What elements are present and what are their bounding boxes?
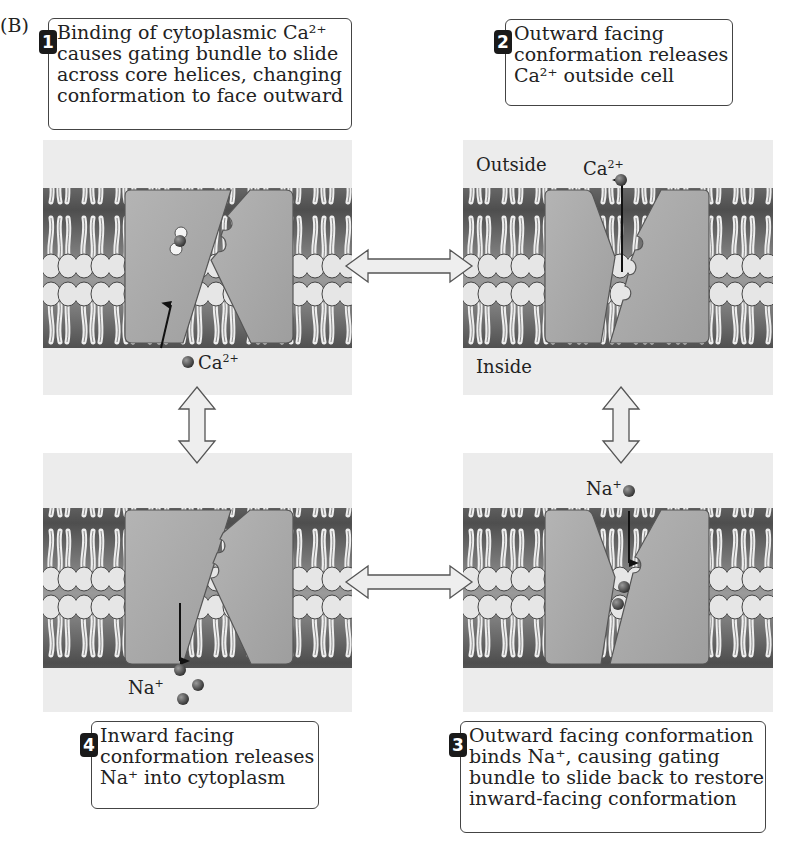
ca-label: Ca2+ bbox=[198, 352, 239, 373]
panel-outward-na-binding: Na+ bbox=[463, 453, 773, 712]
caption-line: bundle to slide back to restore bbox=[469, 767, 755, 788]
step-1-caption: Binding of cytoplasmic Ca²⁺ causes gatin… bbox=[48, 18, 352, 130]
ca-ion bbox=[182, 356, 194, 368]
step-3-badge: 3 bbox=[449, 733, 467, 757]
caption-line: Binding of cytoplasmic Ca²⁺ bbox=[57, 22, 341, 43]
outside-label: Outside bbox=[476, 154, 547, 175]
na-ion bbox=[192, 679, 204, 691]
horizontal-double-arrow-top bbox=[342, 246, 476, 286]
caption-line: Ca²⁺ outside cell bbox=[514, 65, 722, 86]
na-ion bbox=[623, 485, 635, 497]
panel-outward-ca-release: Outside Ca2+ Inside bbox=[463, 140, 773, 395]
na-label: Na+ bbox=[586, 478, 622, 499]
step-1-badge: 1 bbox=[39, 30, 57, 54]
inside-label: Inside bbox=[476, 356, 532, 377]
caption-line: causes gating bundle to slide bbox=[57, 43, 341, 64]
step-2-caption: Outward facing conformation releases Ca²… bbox=[505, 19, 733, 106]
step-4-caption: Inward facing conformation releases Na⁺ … bbox=[91, 721, 319, 809]
na-ion-bound bbox=[618, 581, 630, 593]
caption-line: Inward facing bbox=[100, 725, 308, 746]
caption-line: conformation releases bbox=[100, 746, 308, 767]
vertical-double-arrow-right bbox=[601, 385, 641, 465]
vertical-double-arrow-left bbox=[177, 385, 217, 465]
panel-inward-ca-binding: Ca2+ bbox=[43, 140, 352, 395]
na-label: Na+ bbox=[128, 677, 164, 698]
horizontal-double-arrow-bottom bbox=[342, 562, 476, 602]
step-3-caption: Outward facing conformation binds Na⁺, c… bbox=[460, 721, 766, 833]
caption-line: Outward facing conformation bbox=[469, 725, 755, 746]
ca-ion-bound bbox=[174, 235, 186, 247]
figure-label: (B) bbox=[0, 14, 29, 36]
ca-label: Ca2+ bbox=[583, 158, 624, 179]
caption-line: conformation to face outward bbox=[57, 85, 341, 106]
caption-line: inward-facing conformation bbox=[469, 788, 755, 809]
na-ion-bound bbox=[612, 598, 624, 610]
caption-line: conformation releases bbox=[514, 44, 722, 65]
na-ion bbox=[177, 693, 189, 705]
na-ion bbox=[174, 664, 186, 676]
caption-line: across core helices, changing bbox=[57, 64, 341, 85]
caption-line: Na⁺ into cytoplasm bbox=[100, 767, 308, 788]
caption-line: Outward facing bbox=[514, 23, 722, 44]
step-4-badge: 4 bbox=[80, 733, 98, 757]
caption-line: binds Na⁺, causing gating bbox=[469, 746, 755, 767]
membrane-illustration bbox=[43, 453, 352, 712]
panel-inward-na-release: Na+ bbox=[43, 453, 352, 712]
step-2-badge: 2 bbox=[494, 30, 512, 54]
